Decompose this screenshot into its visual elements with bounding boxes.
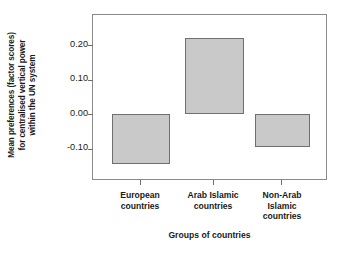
y-tick-label-020: 0.20 <box>52 39 88 49</box>
x-tick-mark-arab-islamic <box>213 180 214 185</box>
x-category-label-arab-islamic: Arab Islamic countries <box>174 190 252 211</box>
y-tick-mark-000 <box>88 114 93 115</box>
bar-chart-figure: Mean preferences (factor scores) for cen… <box>0 0 343 254</box>
plot-area <box>93 15 326 179</box>
x-category-label-non-arab-islamic: Non-Arab Islamic countries <box>246 190 318 222</box>
y-tick-mark-neg010 <box>88 149 93 150</box>
bar-european-countries[interactable] <box>112 114 170 164</box>
x-tick-mark-european <box>140 180 141 185</box>
x-axis-title: Groups of countries <box>92 230 327 240</box>
y-tick-label-010: 0.10 <box>52 73 88 83</box>
bar-arab-islamic-countries[interactable] <box>185 38 244 114</box>
y-tick-mark-010 <box>88 80 93 81</box>
x-category-label-european: European countries <box>100 190 180 211</box>
y-tick-label-neg010: -0.10 <box>52 142 88 152</box>
y-tick-label-000: 0.00 <box>52 108 88 118</box>
y-tick-mark-020 <box>88 45 93 46</box>
plot-frame <box>92 14 327 180</box>
x-tick-mark-non-arab-islamic <box>281 180 282 185</box>
y-axis-title: Mean preferences (factor scores) for cen… <box>0 0 46 190</box>
bar-non-arab-islamic-countries[interactable] <box>255 114 310 147</box>
